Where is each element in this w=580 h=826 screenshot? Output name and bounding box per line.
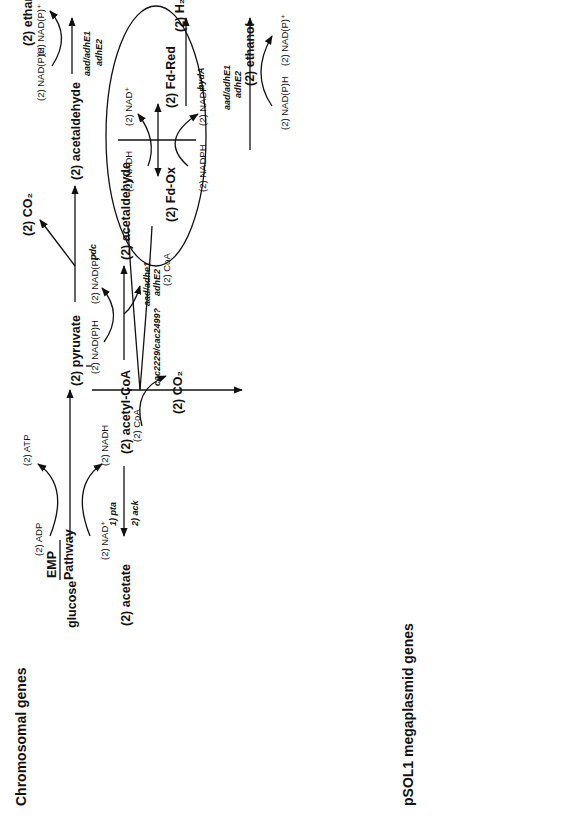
- metabolite-acetate: (2) acetate: [119, 564, 133, 626]
- enzyme-adh-eth2-2: adhE2: [233, 71, 243, 98]
- cofactor-nadph-fd: (2) NADPH: [197, 144, 208, 192]
- arrow-nadph-acald: [102, 288, 114, 342]
- landscape-frame: Chromosomal genes pSOL1 megaplasmid gene…: [13, 0, 416, 806]
- enzyme-hyda: hydA: [196, 68, 206, 91]
- metabolite-h2: (2) H₂: [173, 0, 187, 32]
- chromosomal-table-title: Chromosomal genes: [13, 667, 29, 806]
- label-emp: EMP: [45, 551, 59, 578]
- cofactor-nad-fd: (2) NAD⁺: [123, 87, 134, 126]
- enzyme-pfor: cac2229/cac2499?: [152, 307, 162, 386]
- cofactor-nadh-emp: (2) NADH: [99, 425, 110, 466]
- enzyme-adh-eth2-1: aad/adhE1: [222, 65, 232, 110]
- label-pathway: Pathway: [62, 529, 76, 580]
- cofactor-atp: (2) ATP: [21, 435, 32, 467]
- metabolite-ethanol-mid: (2) ethanol: [243, 23, 257, 86]
- metabolite-fd-ox: (2) Fd-Ox: [164, 167, 178, 222]
- enzyme-adh-top-1: aad/adhE1: [82, 31, 92, 76]
- metabolite-acetaldehyde-mid: (2) acetaldehyde: [119, 162, 133, 260]
- enzyme-ack: 2) ack: [130, 499, 140, 527]
- arrow-nadph-top: [50, 11, 62, 66]
- cofactor-nadp-acald: (2) NAD(P)⁺: [89, 252, 100, 304]
- cofactor-nadp-top: (2) NAD(P)⁺: [35, 4, 46, 56]
- metabolite-acetaldehyde-top: (2) acetaldehyde: [69, 82, 83, 180]
- metabolite-pyruvate: (2) pyruvate: [69, 315, 83, 386]
- metabolite-fd-red: (2) Fd-Red: [164, 46, 178, 108]
- arrow-nadph-eth2: [261, 36, 272, 106]
- enzyme-pta: 1) pta: [108, 502, 118, 526]
- metabolite-co2-pdc: (2) CO₂: [21, 193, 35, 236]
- megaplasmid-table-title: pSOL1 megaplasmid genes: [400, 623, 416, 806]
- metabolite-co2-pfor: (2) CO₂: [171, 371, 185, 414]
- cofactor-coa-acald: (2) CoA: [161, 253, 172, 286]
- enzyme-adh-top-2: adhE2: [94, 39, 104, 66]
- metabolite-acetyl-coa: (2) acetyl-CoA: [119, 370, 133, 454]
- metabolic-pathway-figure: Chromosomal genes pSOL1 megaplasmid gene…: [0, 0, 580, 826]
- cofactor-nadph-eth2: (2) NAD(P)H: [279, 76, 290, 130]
- arrow-pdc-co2: [40, 220, 75, 266]
- cofactor-nadph-acald: (2) NAD(P)H: [89, 320, 100, 374]
- metabolite-ethanol-top: (2) ethanol: [21, 0, 35, 46]
- enzyme-adh-acald-1: aad/adhe1: [142, 262, 152, 306]
- cofactor-adp: (2) ADP: [33, 523, 44, 556]
- landscape-frame-2: (2) acetyl-CoA 1) pta 2) ack (2) acetate…: [89, 14, 290, 626]
- cofactor-nadp-eth2: (2) NAD(P)⁺: [279, 14, 290, 66]
- metabolite-glucose: glucose: [65, 581, 79, 628]
